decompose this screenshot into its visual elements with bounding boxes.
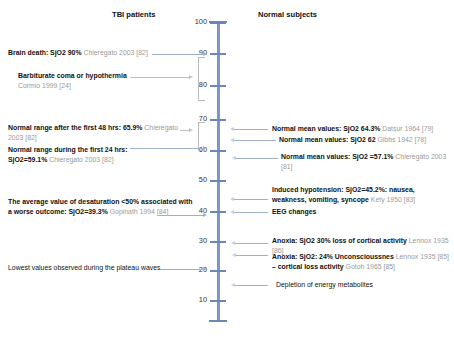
axis-tick-30 bbox=[210, 241, 226, 243]
annotation-brain-death-text: Brain death: SjO2 90% bbox=[8, 49, 83, 56]
figure-canvas: TBI patients Normal subjects 100 90 80 7… bbox=[0, 0, 454, 345]
arrowhead-normal-range-48hrs bbox=[189, 128, 193, 132]
annotation-normal-mean-datsur-citation: Datsur 1964 [79] bbox=[382, 125, 433, 132]
connector-plateau-waves bbox=[160, 269, 204, 270]
annotation-normal-range-48hrs-text: Normal range after the first 48 hrs: 65.… bbox=[8, 124, 144, 131]
annotation-desaturation-outcome-citation: Gopinath 1994 [84] bbox=[110, 208, 169, 215]
annotation-anoxia-24-citation: Lennox 1935 [85] bbox=[396, 253, 449, 260]
axis-tick-50 bbox=[210, 180, 226, 182]
connector-induced-hypotension bbox=[234, 199, 268, 200]
arrowhead-barbiturate-coma bbox=[189, 75, 193, 79]
annotation-anoxia-24-citation2: Gotoh 1965 [85] bbox=[346, 263, 395, 270]
axis-tick-20 bbox=[210, 270, 226, 272]
annotation-induced-hypotension-citation: Kety 1950 [83] bbox=[371, 196, 415, 203]
connector-normal-mean-gibbs bbox=[234, 140, 276, 141]
axis-tick-80 bbox=[210, 85, 226, 87]
annotation-normal-mean-gibbs: Normal mean values: SjO2 62 Gibbs 1942 [… bbox=[279, 135, 451, 145]
connector-desaturation-outcome bbox=[158, 215, 204, 216]
annotation-barbiturate-coma: Barbiturate coma or hypothermia Cormio 1… bbox=[18, 71, 163, 91]
connector-normal-range-24hrs bbox=[130, 148, 204, 149]
annotation-anoxia-24-text2: – cortical loss activity bbox=[272, 263, 346, 270]
axis-tick-70 bbox=[210, 119, 226, 121]
annotation-induced-hypotension: Induced hypotension: SjO2=45.2%: nausea,… bbox=[272, 185, 447, 205]
annotation-anoxia-24: Anoxia: SjO2: 24% Unconscioussnes Lennox… bbox=[272, 252, 452, 272]
axis-tick-100 bbox=[210, 22, 226, 24]
annotation-brain-death-citation: Chieregato 2003 [82] bbox=[83, 49, 147, 56]
column-header-normal-subjects: Normal subjects bbox=[258, 10, 317, 19]
arrowhead-brain-death bbox=[203, 52, 207, 56]
annotation-normal-mean-chieregato: Normal mean values: SjO2 =57.1% Chierega… bbox=[281, 152, 451, 172]
arrowhead-desaturation-outcome bbox=[203, 213, 207, 217]
bracket-barbiturate-range bbox=[198, 57, 205, 101]
annotation-normal-range-24hrs-citation: Chieregato 2003 [82] bbox=[49, 156, 113, 163]
axis-tick-90 bbox=[210, 53, 226, 55]
connector-normal-mean-datsur bbox=[234, 129, 268, 130]
axis-cap-bottom bbox=[209, 320, 227, 322]
connector-normal-mean-chieregato bbox=[236, 158, 278, 159]
arrowhead-plateau-waves bbox=[203, 267, 207, 271]
connector-eeg-changes bbox=[234, 212, 268, 213]
annotation-plateau-waves-text: Lowest values observed during the platea… bbox=[8, 264, 160, 271]
annotation-normal-mean-datsur: Normal mean values: SjO2 64.3% Datsur 19… bbox=[272, 124, 450, 134]
axis-tick-label-100: 100 bbox=[185, 17, 207, 26]
connector-brain-death bbox=[152, 54, 204, 55]
annotation-normal-mean-datsur-text: Normal mean values: SjO2 64.3% bbox=[272, 125, 382, 132]
annotation-normal-mean-gibbs-text: Normal mean values: SjO2 62 bbox=[279, 136, 377, 143]
annotation-barbiturate-coma-text: Barbiturate coma or hypothermia bbox=[18, 72, 127, 79]
annotation-normal-range-48hrs: Normal range after the first 48 hrs: 65.… bbox=[8, 123, 183, 143]
annotation-depletion-metabolites-text: Depletion of energy metabolites bbox=[276, 281, 373, 288]
annotation-plateau-waves: Lowest values observed during the platea… bbox=[8, 263, 168, 273]
axis-tick-label-30: 30 bbox=[185, 236, 207, 245]
connector-depletion-metabolites bbox=[235, 285, 268, 286]
annotation-normal-mean-chieregato-text: Normal mean values: SjO2 =57.1% bbox=[281, 153, 395, 160]
axis-tick-label-50: 50 bbox=[185, 175, 207, 184]
annotation-depletion-metabolites: Depletion of energy metabolites bbox=[276, 280, 441, 290]
axis-tick-40 bbox=[210, 211, 226, 213]
annotation-anoxia-30-text: Anoxia: SjO2 30% loss of cortical activi… bbox=[272, 237, 409, 244]
axis-tick-60 bbox=[210, 150, 226, 152]
sjo2-axis-line bbox=[217, 22, 220, 322]
axis-tick-10 bbox=[210, 300, 226, 302]
connector-barbiturate-coma bbox=[130, 77, 190, 78]
arrowhead-normal-range-24hrs bbox=[203, 146, 207, 150]
connector-anoxia-30 bbox=[235, 243, 268, 244]
annotation-barbiturate-coma-citation: Cormio 1999 [24] bbox=[18, 82, 71, 89]
annotation-brain-death: Brain death: SjO2 90% Chieregato 2003 [8… bbox=[8, 48, 158, 58]
annotation-desaturation-outcome: The average value of desaturation <50% a… bbox=[8, 197, 198, 217]
connector-anoxia-24 bbox=[236, 255, 268, 256]
annotation-anoxia-24-text: Anoxia: SjO2: 24% Unconscioussnes bbox=[272, 253, 396, 260]
annotation-eeg-changes: EEG changes bbox=[272, 207, 412, 217]
annotation-normal-mean-gibbs-citation: Gibbs 1942 [78] bbox=[377, 136, 426, 143]
axis-tick-label-10: 10 bbox=[185, 295, 207, 304]
column-header-tbi-patients: TBI patients bbox=[112, 10, 155, 19]
annotation-eeg-changes-text: EEG changes bbox=[272, 208, 316, 215]
